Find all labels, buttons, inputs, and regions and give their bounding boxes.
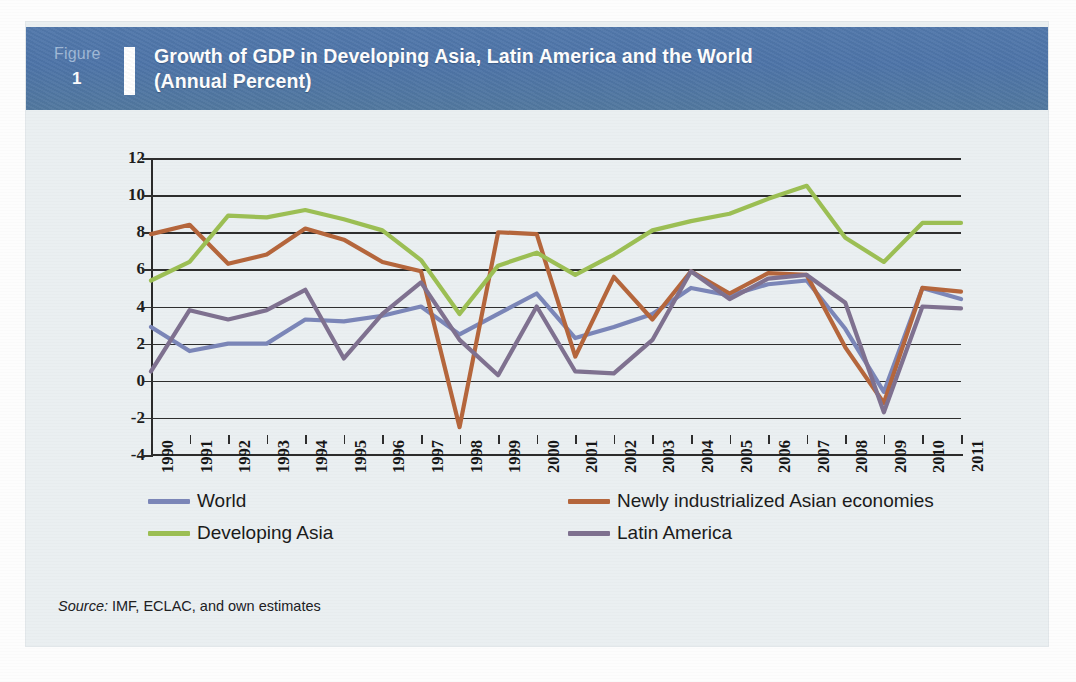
plot-area — [151, 158, 961, 455]
figure-header-band: Figure 1 Growth of GDP in Developing Asi… — [26, 27, 1048, 110]
legend-item[interactable]: Developing Asia — [148, 522, 333, 544]
source-note: Source: IMF, ECLAC, and own estimates — [58, 598, 321, 614]
legend-swatch-icon — [148, 531, 190, 536]
figure-page: Figure 1 Growth of GDP in Developing Asi… — [0, 0, 1076, 682]
series-line — [151, 225, 961, 427]
legend-swatch-icon — [568, 531, 610, 536]
legend-item[interactable]: Newly industrialized Asian economies — [568, 490, 934, 512]
x-axis-tick-label: 1993 — [274, 440, 294, 473]
figure-title: Growth of GDP in Developing Asia, Latin … — [154, 44, 753, 94]
source-label: Source: — [58, 598, 108, 614]
x-axis-tick-label: 2000 — [544, 440, 564, 473]
y-axis-labels: 121086420-2-4 — [105, 158, 145, 455]
x-axis-tick-label: 1992 — [235, 440, 255, 473]
figure-word: Figure — [54, 45, 101, 63]
x-axis-tick-label: 1997 — [428, 440, 448, 473]
header-divider-rule — [124, 47, 135, 95]
figure-title-line-2: (Annual Percent) — [154, 69, 753, 94]
chart: 121086420-2-4 19901991199219931994199519… — [105, 140, 985, 470]
x-axis-tick-label: 2007 — [814, 440, 834, 473]
x-axis-tick-label: 1994 — [312, 440, 332, 473]
x-axis-tick-label: 2001 — [582, 440, 602, 473]
source-text: IMF, ECLAC, and own estimates — [108, 598, 321, 614]
x-axis-tick-label: 2006 — [775, 440, 795, 473]
x-axis-tick-label: 2011 — [968, 440, 988, 472]
x-axis-tick-label: 1990 — [158, 440, 178, 473]
chart-legend: WorldNewly industrialized Asian economie… — [148, 490, 988, 552]
x-axis-tick-label: 2002 — [621, 440, 641, 473]
legend-swatch-icon — [148, 499, 190, 504]
x-axis-tick-label: 2010 — [929, 440, 949, 473]
legend-label: Newly industrialized Asian economies — [617, 490, 934, 512]
x-axis-tick-label: 1996 — [389, 440, 409, 473]
x-axis-tick-label: 2005 — [737, 440, 757, 473]
x-axis-tick-label: 2003 — [659, 440, 679, 473]
x-axis-tick-label: 2009 — [891, 440, 911, 473]
legend-label: Latin America — [617, 522, 732, 544]
series-lines — [151, 158, 961, 455]
legend-item[interactable]: Latin America — [568, 522, 732, 544]
x-axis-tick-label: 2008 — [852, 440, 872, 473]
figure-title-line-1: Growth of GDP in Developing Asia, Latin … — [154, 44, 753, 69]
legend-label: Developing Asia — [197, 522, 333, 544]
figure-number: 1 — [72, 69, 81, 89]
legend-label: World — [197, 490, 246, 512]
x-axis-tick-label: 1998 — [467, 440, 487, 473]
x-axis-tick-label: 2004 — [698, 440, 718, 473]
x-axis-tick-label: 1999 — [505, 440, 525, 473]
x-axis-tick-label: 1995 — [351, 440, 371, 473]
figure-label-block: Figure 1 — [26, 27, 122, 110]
x-axis-tick-label: 1991 — [197, 440, 217, 473]
legend-item[interactable]: World — [148, 490, 246, 512]
legend-swatch-icon — [568, 499, 610, 504]
